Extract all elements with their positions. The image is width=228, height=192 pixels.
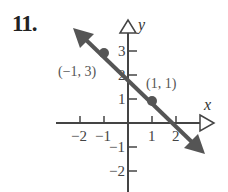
y-tick-label: −2	[109, 163, 125, 179]
y-axis-arrow-icon	[120, 20, 136, 33]
coordinate-plane: −2−112321−1−2 x y (−1, 3) (1, 1)	[0, 0, 228, 192]
y-tick-label: 3	[118, 43, 126, 59]
y-axis-label: y	[136, 16, 146, 34]
x-axis-label: x	[203, 96, 211, 113]
x-tick-label: 1	[148, 128, 156, 144]
point-label-1-1: (1, 1)	[146, 76, 177, 92]
point-1-1	[147, 96, 157, 106]
x-axis-arrow-icon	[200, 115, 214, 131]
y-tick-label: −1	[109, 139, 125, 155]
point-label-neg1-3: (−1, 3)	[58, 64, 97, 80]
point-neg1-3	[99, 48, 109, 58]
y-tick-label: 1	[118, 91, 126, 107]
x-tick-label: −2	[71, 128, 87, 144]
plotted-line	[73, 28, 205, 154]
